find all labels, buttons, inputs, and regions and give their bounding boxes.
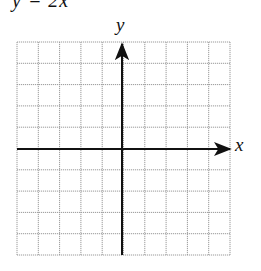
- coordinate-grid: [0, 0, 261, 271]
- y-axis-label: y: [116, 14, 124, 36]
- x-axis-label: x: [235, 134, 243, 156]
